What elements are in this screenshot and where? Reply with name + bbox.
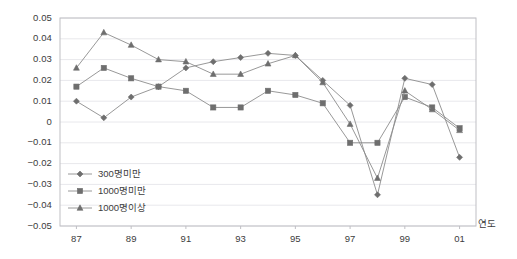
y-tick-label: 0.01 [12, 96, 52, 106]
legend-markers [66, 168, 106, 228]
x-axis-title: 연도 [478, 218, 496, 229]
data-point-square [211, 105, 216, 110]
data-point-diamond [77, 171, 83, 177]
data-point-square [183, 88, 188, 93]
y-tick-label: 0.05 [12, 13, 52, 23]
data-point-square [156, 84, 161, 89]
x-tick-label: 89 [116, 234, 146, 244]
y-tick-label: −0.02 [12, 158, 52, 168]
data-point-square [348, 140, 353, 145]
x-tick-label: 87 [61, 234, 91, 244]
x-tick-label: 95 [280, 234, 310, 244]
x-tick-label: 93 [226, 234, 256, 244]
x-tick-label: 97 [335, 234, 365, 244]
y-tick-label: −0.05 [12, 221, 52, 231]
data-point-square [74, 84, 79, 89]
data-point-square [129, 76, 134, 81]
data-point-square [265, 88, 270, 93]
x-tick-label: 99 [390, 234, 420, 244]
y-tick-label: −0.03 [12, 179, 52, 189]
y-tick-label: 0.04 [12, 33, 52, 43]
y-tick-label: 0.03 [12, 54, 52, 64]
line-chart: 0.050.040.030.020.010−0.01−0.02−0.03−0.0… [0, 0, 517, 259]
data-point-square [320, 101, 325, 106]
y-tick-label: −0.04 [12, 200, 52, 210]
data-point-square [375, 140, 380, 145]
data-point-square [293, 92, 298, 97]
x-tick-label: 91 [171, 234, 201, 244]
y-tick-label: −0.01 [12, 137, 52, 147]
data-point-square [101, 65, 106, 70]
y-tick-label: 0 [12, 117, 52, 127]
x-tick-label: 01 [445, 234, 475, 244]
y-tick-label: 0.02 [12, 75, 52, 85]
data-point-square [238, 105, 243, 110]
data-point-square [77, 188, 82, 193]
